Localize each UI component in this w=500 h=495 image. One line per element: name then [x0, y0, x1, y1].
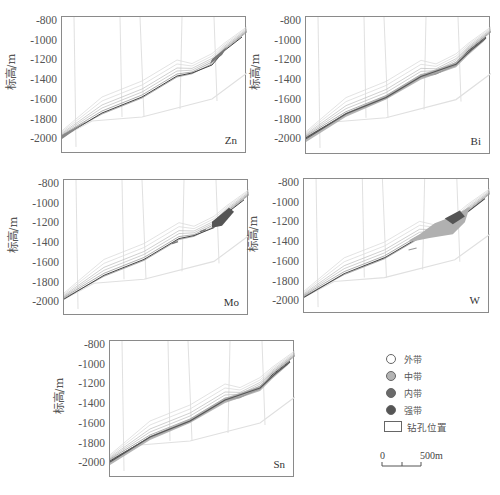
y-tick-label: -1600	[61, 417, 105, 429]
scale-bar: 0 500m	[380, 450, 490, 470]
y-tick-label: -1600	[13, 93, 57, 105]
inner-zone-circle-icon	[386, 388, 396, 398]
panel-w: W	[303, 178, 489, 313]
element-label: Sn	[273, 458, 285, 470]
y-tick-label: -1200	[13, 53, 57, 65]
y-tick-label: -1200	[61, 377, 105, 389]
y-tick-label: -1800	[15, 276, 59, 288]
legend-label: 外带	[404, 353, 422, 366]
y-tick-label: -1600	[15, 256, 59, 268]
legend-label: 内带	[404, 387, 422, 400]
y-tick-label: -1200	[257, 53, 301, 65]
y-tick-label: -800	[13, 14, 57, 26]
outer-zone-circle-icon	[386, 354, 396, 364]
element-label: Bi	[471, 135, 481, 147]
y-axis-label: 标高/m	[2, 47, 18, 97]
y-axis-label: 标高/m	[4, 210, 20, 260]
y-tick-label: -2000	[15, 295, 59, 307]
element-label: W	[470, 294, 480, 306]
legend-label: 强带	[404, 404, 422, 417]
panel-bi: Bi	[305, 16, 490, 154]
borehole-box-icon	[384, 421, 402, 432]
y-tick-label: -1000	[15, 197, 59, 209]
y-tick-label: -1400	[257, 73, 301, 85]
legend-label: 中带	[404, 370, 422, 383]
y-tick-label: -800	[61, 338, 105, 350]
y-tick-label: -1000	[257, 34, 301, 46]
y-tick-label: -2000	[255, 294, 299, 306]
element-label: Zn	[225, 134, 237, 146]
y-tick-label: -1200	[15, 216, 59, 228]
legend-item-outer: 外带	[384, 352, 494, 369]
legend-item-intense: 强带	[384, 403, 494, 420]
y-tick-label: -1000	[61, 358, 105, 370]
y-tick-label: -800	[255, 176, 299, 188]
y-tick-label: -2000	[61, 456, 105, 468]
y-tick-label: -1400	[61, 397, 105, 409]
y-tick-label: -2000	[257, 132, 301, 144]
legend-label: 钻孔位置	[407, 420, 447, 434]
y-tick-label: -1600	[257, 93, 301, 105]
cross-section-plot	[306, 17, 491, 155]
y-tick-label: -800	[257, 14, 301, 26]
legend-item-borehole: 钻孔位置	[384, 420, 494, 440]
y-tick-label: -1200	[255, 215, 299, 227]
y-tick-label: -1800	[255, 275, 299, 287]
cross-section-plot	[110, 341, 295, 478]
legend: 外带 中带 内带 强带 钻孔位置	[384, 352, 494, 440]
element-label: Mo	[224, 296, 239, 308]
y-tick-label: -1000	[255, 196, 299, 208]
y-axis-label: 标高/m	[50, 371, 66, 421]
y-tick-label: -1400	[255, 235, 299, 247]
scale-line-icon	[380, 450, 490, 470]
panel-zn: Zn	[61, 16, 246, 153]
panel-mo: Mo	[63, 179, 248, 315]
legend-item-middle: 中带	[384, 369, 494, 386]
panel-sn: Sn	[109, 340, 294, 477]
y-tick-label: -1800	[13, 113, 57, 125]
y-tick-label: -2000	[13, 132, 57, 144]
y-tick-label: -1600	[255, 255, 299, 267]
cross-section-plot	[64, 180, 249, 316]
y-axis-label: 标高/m	[244, 209, 260, 259]
cross-section-plot	[62, 17, 247, 154]
intense-zone-circle-icon	[386, 405, 396, 415]
y-axis-label: 标高/m	[246, 47, 262, 97]
y-tick-label: -1400	[15, 236, 59, 248]
y-tick-label: -1400	[13, 73, 57, 85]
legend-item-inner: 内带	[384, 386, 494, 403]
y-tick-label: -1000	[13, 34, 57, 46]
y-tick-label: -800	[15, 177, 59, 189]
y-tick-label: -1800	[257, 113, 301, 125]
middle-zone-circle-icon	[386, 371, 396, 381]
cross-section-plot	[304, 179, 490, 314]
y-tick-label: -1800	[61, 437, 105, 449]
